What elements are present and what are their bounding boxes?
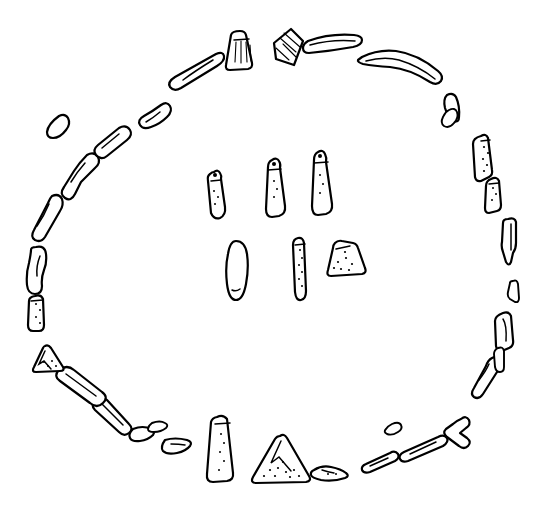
plan-background bbox=[0, 0, 547, 511]
stone-O9 bbox=[508, 280, 519, 302]
plan-drawing-canvas bbox=[0, 0, 547, 511]
stone-circle-plan: Stone circle plan bbox=[0, 0, 547, 511]
stone-I4 bbox=[226, 241, 248, 300]
stone-I5 bbox=[293, 238, 306, 300]
stone-O23 bbox=[28, 295, 44, 331]
stone-O10 bbox=[495, 312, 513, 351]
stone-O7 bbox=[485, 178, 501, 213]
stone-O6 bbox=[473, 135, 492, 181]
stone-O32 bbox=[494, 347, 504, 372]
